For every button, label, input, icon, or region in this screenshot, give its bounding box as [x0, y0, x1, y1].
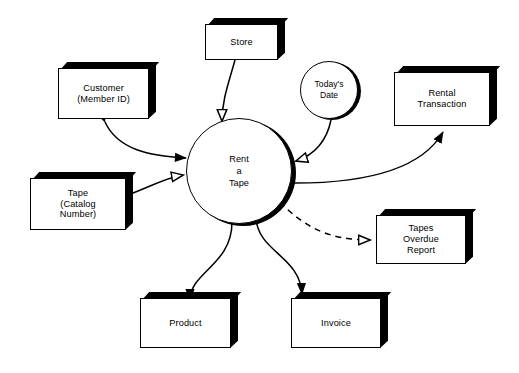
entity-product-label: Product	[169, 318, 201, 329]
entity-store-face: Store	[205, 24, 278, 60]
process-rent-a-tape[interactable]: Rent a Tape	[186, 118, 292, 224]
flow-process-to-rental-transaction	[287, 132, 443, 183]
process-rent-a-tape-face: Rent a Tape	[186, 118, 292, 224]
entity-todays-date[interactable]: Today's Date	[300, 61, 358, 119]
entity-tape-face: Tape (Catalog Number)	[30, 178, 126, 230]
entity-store[interactable]: Store	[205, 18, 285, 60]
box-shadow-right	[381, 292, 388, 347]
diagram-canvas: Store Customer (Member ID) Today's Date …	[0, 0, 519, 373]
entity-tapes-overdue-report-label: Tapes Overdue Report	[403, 223, 439, 256]
flow-todays-date-to-process	[296, 120, 331, 161]
box-shadow-right	[149, 62, 156, 118]
entity-tapes-overdue-report-face: Tapes Overdue Report	[376, 215, 466, 264]
process-rent-a-tape-label: Rent a Tape	[229, 153, 249, 189]
entity-invoice-face: Invoice	[291, 298, 381, 348]
entity-product-face: Product	[140, 298, 231, 348]
entity-product[interactable]: Product	[140, 292, 238, 348]
box-shadow-right	[466, 209, 473, 263]
entity-tape-label: Tape (Catalog Number)	[60, 188, 96, 221]
entity-rental-transaction[interactable]: Rental Transaction	[394, 66, 497, 126]
box-shadow-right	[231, 292, 238, 347]
flow-process-to-invoice	[256, 218, 302, 294]
entity-invoice[interactable]: Invoice	[291, 292, 388, 348]
entity-todays-date-face: Today's Date	[300, 61, 358, 119]
entity-tape[interactable]: Tape (Catalog Number)	[30, 172, 133, 230]
flow-customer-process	[105, 122, 186, 158]
entity-tapes-overdue-report[interactable]: Tapes Overdue Report	[376, 209, 473, 264]
entity-rental-transaction-label: Rental Transaction	[418, 88, 467, 110]
box-shadow-right	[490, 66, 497, 125]
flow-process-to-overdue-report	[280, 202, 370, 240]
entity-store-label: Store	[230, 37, 252, 48]
entity-customer-face: Customer (Member ID)	[58, 68, 149, 119]
entity-todays-date-label: Today's Date	[315, 79, 344, 100]
entity-rental-transaction-face: Rental Transaction	[394, 72, 490, 126]
flow-store-to-process	[222, 60, 235, 121]
entity-invoice-label: Invoice	[321, 318, 351, 329]
entity-customer[interactable]: Customer (Member ID)	[58, 62, 156, 119]
box-shadow-right	[278, 18, 285, 59]
box-shadow-right	[126, 172, 133, 229]
entity-customer-label: Customer (Member ID)	[77, 83, 130, 105]
flow-tape-to-process	[128, 175, 183, 195]
flow-product-process	[190, 222, 232, 300]
